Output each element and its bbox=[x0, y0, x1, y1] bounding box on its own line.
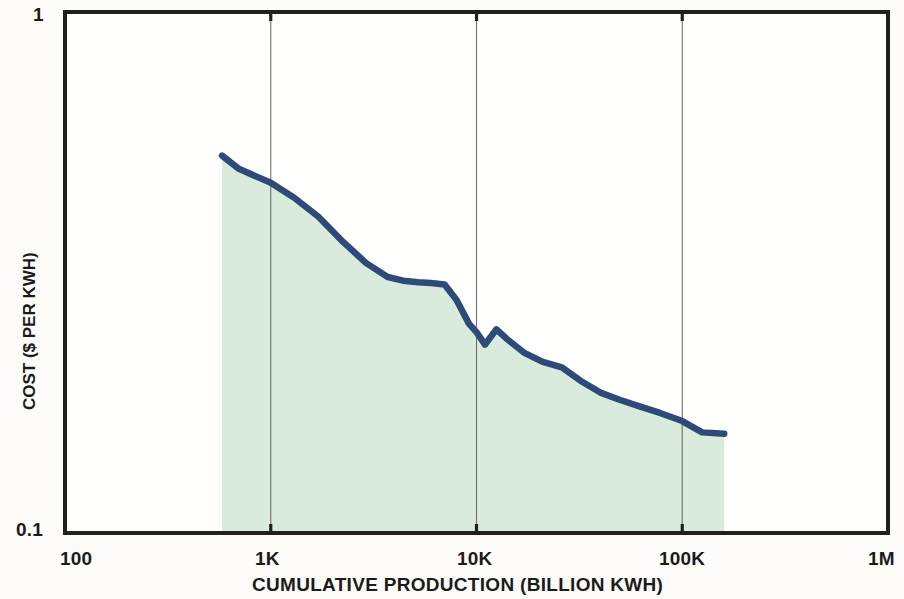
x-axis-title: CUMULATIVE PRODUCTION (BILLION KWH) bbox=[252, 574, 663, 596]
x-axis-tick-10k: 10K bbox=[457, 548, 492, 570]
y-axis-title: COST ($ PER KWH) bbox=[20, 252, 40, 410]
chart-container: 1 0.1 100 1K 10K 100K 1M CUMULATIVE PROD… bbox=[0, 0, 904, 599]
x-axis-tick-100: 100 bbox=[60, 548, 92, 570]
y-axis-tick-1: 1 bbox=[33, 4, 44, 26]
x-axis-tick-100k: 100K bbox=[659, 548, 705, 570]
x-axis-tick-1m: 1M bbox=[868, 548, 895, 570]
experience-curve-chart bbox=[0, 0, 904, 599]
x-axis-tick-1k: 1K bbox=[255, 548, 280, 570]
y-axis-tick-0point1: 0.1 bbox=[16, 519, 43, 541]
